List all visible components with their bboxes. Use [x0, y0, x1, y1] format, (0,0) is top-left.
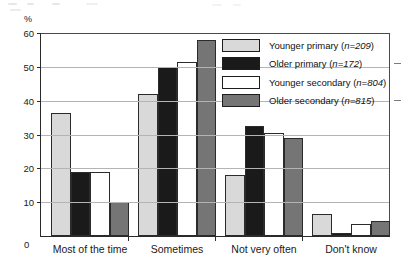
legend-swatch-younger-primary: [222, 39, 260, 52]
x-tick-mark: [128, 237, 129, 241]
bar: [351, 224, 371, 236]
scan-artifact-dash: [394, 100, 401, 101]
bar: [90, 172, 110, 236]
bar: [177, 62, 197, 236]
x-tick-label: Don't know: [291, 243, 404, 255]
y-axis-labels: 102030405060: [0, 33, 34, 237]
legend-item: Older secondary (n=815): [222, 92, 390, 111]
legend-swatch-older-secondary: [222, 94, 260, 107]
legend-label-older-primary: Older primary (n=172): [269, 58, 362, 69]
legend-label-older-secondary: Older secondary (n=815): [269, 95, 374, 106]
gridline: [41, 168, 389, 169]
bar: [158, 67, 178, 236]
gridline: [41, 135, 389, 136]
y-tick-label: 30: [4, 131, 34, 141]
scan-artifact-strip: [0, 0, 404, 12]
y-tick-mark: [37, 202, 40, 203]
bar: [264, 133, 284, 236]
y-tick-mark: [37, 33, 40, 34]
bar: [138, 94, 158, 236]
bar: [284, 138, 304, 236]
y-tick-label: 10: [4, 198, 34, 208]
bar: [332, 233, 352, 236]
y-axis-unit-label: %: [24, 14, 32, 24]
y-tick-mark: [37, 168, 40, 169]
legend-label-younger-primary: Younger primary (n=209): [269, 40, 374, 51]
y-tick-label: 60: [4, 29, 34, 39]
y-tick-mark: [37, 135, 40, 136]
bar: [225, 175, 245, 236]
y-axis-zero-label: 0: [24, 239, 29, 250]
bar: [197, 40, 217, 236]
legend-label-younger-secondary: Younger secondary (n=804): [269, 77, 386, 88]
y-tick-mark: [37, 101, 40, 102]
legend-swatch-younger-secondary: [222, 76, 260, 89]
bar: [371, 221, 391, 236]
gridline: [41, 202, 389, 203]
bar: [110, 202, 130, 236]
scan-artifact-dash: [394, 63, 401, 64]
bar: [51, 113, 71, 236]
legend-item: Younger primary (n=209): [222, 36, 390, 55]
x-tick-mark: [302, 237, 303, 241]
legend-item: Younger secondary (n=804): [222, 73, 390, 92]
bar: [71, 172, 91, 236]
bar: [312, 214, 332, 236]
y-tick-mark: [37, 67, 40, 68]
y-tick-label: 40: [4, 97, 34, 107]
x-tick-mark: [215, 237, 216, 241]
x-axis-labels: Most of the timeSometimesNot very oftenD…: [40, 243, 390, 259]
legend-item: Older primary (n=172): [222, 55, 390, 74]
bar: [245, 126, 265, 236]
y-tick-label: 50: [4, 63, 34, 73]
y-tick-label: 20: [4, 164, 34, 174]
legend-swatch-older-primary: [222, 57, 260, 70]
chart-legend: Younger primary (n=209) Older primary (n…: [222, 36, 390, 110]
